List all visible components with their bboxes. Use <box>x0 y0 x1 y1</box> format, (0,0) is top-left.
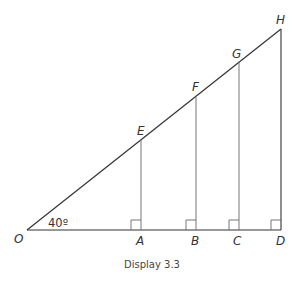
hypotenuse-OH <box>27 29 281 230</box>
figure-caption: Display 3.3 <box>124 259 180 270</box>
point-label-E: E <box>137 124 145 138</box>
similar-triangles-diagram: O A B C D E F G H 40º Display 3.3 <box>0 0 298 282</box>
point-label-D: D <box>276 234 285 248</box>
right-angle-marker-A <box>131 220 141 230</box>
point-label-H: H <box>276 13 285 27</box>
point-label-F: F <box>192 80 200 94</box>
right-angle-marker-D <box>271 220 281 230</box>
point-label-A: A <box>135 234 144 248</box>
point-label-B: B <box>191 234 199 248</box>
right-angle-marker-C <box>229 220 239 230</box>
right-angle-marker-B <box>186 220 196 230</box>
angle-label: 40º <box>48 216 68 230</box>
point-label-C: C <box>233 234 242 248</box>
point-label-G: G <box>232 47 241 61</box>
point-label-O: O <box>14 232 23 246</box>
